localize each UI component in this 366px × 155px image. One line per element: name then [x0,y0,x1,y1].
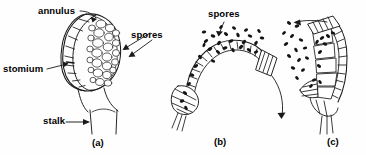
panel-c-artwork [281,16,347,134]
label-stomium-panel-a: stomium [3,63,43,74]
label-spores-panel-b: spores [208,8,240,19]
caption-panel-b: (b) [214,136,226,147]
label-annulus-panel-a: annulus [38,5,75,16]
caption-panel-a: (a) [92,137,104,148]
fern-sporangium-figure: annulus spores stomium stalk spores (a) … [0,0,366,155]
label-spores-panel-a: spores [131,29,163,40]
caption-panel-c: (c) [327,136,339,147]
figure-artwork [0,0,366,155]
panel-b-artwork [171,22,285,131]
label-stalk-panel-a: stalk [43,115,65,126]
panel-a-artwork [61,14,121,134]
